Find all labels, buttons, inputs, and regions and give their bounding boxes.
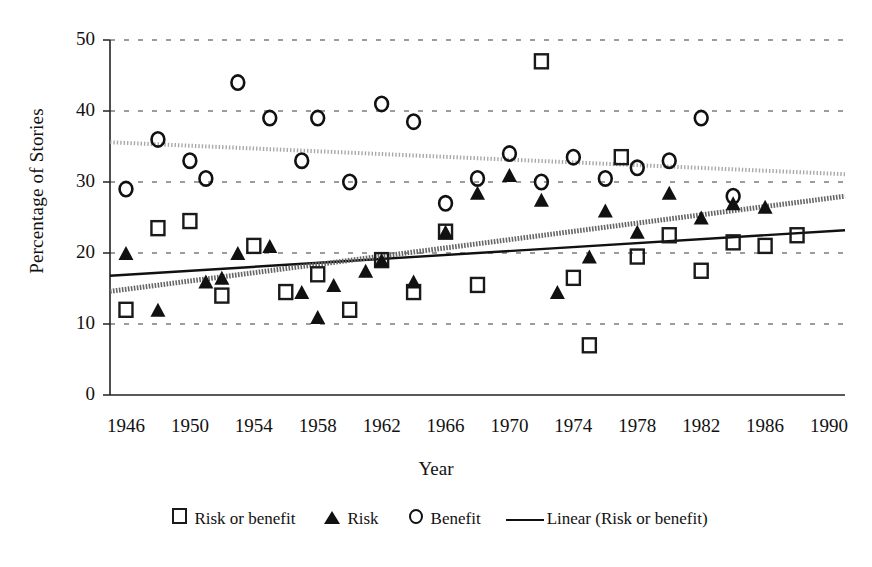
data-point-benefit <box>663 154 676 168</box>
chart-legend: Risk or benefit Risk Benefit Linear (Ris… <box>0 508 872 529</box>
x-tick-label: 1986 <box>730 415 800 437</box>
x-tick-label: 1962 <box>347 415 417 437</box>
data-point-risk-or-benefit <box>215 289 228 303</box>
data-point-risk <box>310 310 325 324</box>
data-point-risk <box>230 246 245 260</box>
data-point-risk <box>470 186 485 200</box>
data-point-benefit <box>407 114 420 128</box>
data-point-benefit <box>295 154 308 168</box>
data-point-risk <box>118 246 133 260</box>
x-tick-label: 1958 <box>283 415 353 437</box>
data-point-benefit <box>631 161 644 175</box>
x-tick-label: 1990 <box>794 415 864 437</box>
data-point-risk-or-benefit <box>343 303 356 317</box>
filled-triangle-icon <box>317 509 347 529</box>
data-point-risk-or-benefit <box>471 278 484 292</box>
data-point-benefit <box>599 171 612 185</box>
legend-label: Risk or benefit <box>194 509 317 529</box>
data-point-risk <box>502 168 517 182</box>
y-tick-label: 0 <box>55 383 95 405</box>
data-point-risk <box>406 274 421 288</box>
data-point-risk <box>150 303 165 317</box>
x-tick-label: 1970 <box>474 415 544 437</box>
data-point-risk <box>358 264 373 278</box>
legend-item-linear-trend: Linear (Risk or benefit) <box>503 509 708 529</box>
data-point-benefit <box>183 154 196 168</box>
data-point-risk-or-benefit <box>535 54 548 68</box>
trendline <box>110 142 845 174</box>
data-point-benefit <box>311 111 324 125</box>
legend-item-risk-or-benefit: Risk or benefit <box>164 508 317 529</box>
data-point-risk <box>438 225 453 239</box>
data-point-benefit <box>199 171 212 185</box>
data-point-benefit <box>439 196 452 210</box>
data-point-risk <box>630 225 645 239</box>
y-tick-label: 30 <box>55 170 95 192</box>
data-point-benefit <box>695 111 708 125</box>
x-tick-label: 1974 <box>538 415 608 437</box>
x-tick-label: 1950 <box>155 415 225 437</box>
trendline <box>110 230 845 275</box>
y-tick-label: 20 <box>55 241 95 263</box>
x-tick-label: 1978 <box>602 415 672 437</box>
legend-item-benefit: Benefit <box>401 509 503 529</box>
data-point-benefit <box>120 182 133 196</box>
data-point-risk-or-benefit <box>631 250 644 264</box>
data-point-risk <box>326 278 341 292</box>
y-tick-label: 40 <box>55 99 95 121</box>
data-point-risk-or-benefit <box>311 267 324 281</box>
data-point-risk-or-benefit <box>279 285 292 299</box>
data-point-risk-or-benefit <box>615 150 628 164</box>
data-point-risk-or-benefit <box>567 271 580 285</box>
data-point-risk-or-benefit <box>759 239 772 253</box>
x-tick-label: 1982 <box>666 415 736 437</box>
y-tick-label: 10 <box>55 312 95 334</box>
data-point-benefit <box>263 111 276 125</box>
chart-figure: Percentage of Stories Year 50403020100 1… <box>0 0 872 567</box>
data-point-risk-or-benefit <box>247 239 260 253</box>
data-point-benefit <box>375 97 388 111</box>
open-square-icon <box>164 508 194 529</box>
data-point-risk <box>294 285 309 299</box>
data-point-risk-or-benefit <box>583 338 596 352</box>
data-point-benefit <box>471 171 484 185</box>
data-point-risk <box>598 203 613 217</box>
plot-area <box>0 0 872 567</box>
legend-item-risk: Risk <box>317 509 400 529</box>
y-axis-title: Percentage of Stories <box>26 81 48 301</box>
legend-label: Linear (Risk or benefit) <box>547 509 708 529</box>
y-tick-label: 50 <box>55 28 95 50</box>
x-tick-label: 1966 <box>411 415 481 437</box>
data-point-benefit <box>503 146 516 160</box>
x-axis-title: Year <box>0 458 872 480</box>
solid-line-icon <box>503 509 547 529</box>
open-circle-icon <box>401 509 431 529</box>
data-point-risk-or-benefit <box>183 214 196 228</box>
data-point-risk <box>662 186 677 200</box>
data-point-risk-or-benefit <box>151 221 164 235</box>
legend-label: Risk <box>347 509 400 529</box>
data-point-risk <box>582 250 597 264</box>
data-point-risk-or-benefit <box>695 264 708 278</box>
data-point-risk <box>534 193 549 207</box>
data-point-risk <box>262 239 277 253</box>
data-point-risk-or-benefit <box>791 228 804 242</box>
legend-label: Benefit <box>431 509 503 529</box>
data-point-benefit <box>231 75 244 89</box>
data-point-risk <box>550 285 565 299</box>
x-tick-label: 1946 <box>91 415 161 437</box>
x-tick-label: 1954 <box>219 415 289 437</box>
data-point-risk-or-benefit <box>119 303 132 317</box>
data-point-risk <box>694 211 709 225</box>
